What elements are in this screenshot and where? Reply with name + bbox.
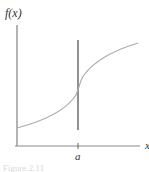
x-axis-label: x [144, 139, 149, 151]
figure-caption: Figure 2.11 [3, 163, 44, 172]
y-axis-label: f(x) [5, 6, 22, 20]
tick-label-a: a [75, 150, 81, 162]
function-diagram: f(x) a x Figure 2.11 [0, 0, 149, 172]
